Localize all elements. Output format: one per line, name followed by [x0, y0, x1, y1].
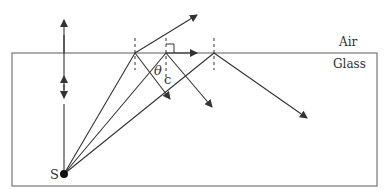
source-label: S [50, 167, 59, 182]
total-internal-reflection-diagram: S θ c Air Glass [0, 0, 387, 190]
ray2-incident [64, 53, 166, 174]
air-label: Air [338, 35, 358, 49]
ray3-incident [64, 53, 214, 174]
source-point [60, 170, 68, 178]
glass-label: Glass [333, 57, 366, 71]
ray2-reflected [166, 53, 212, 107]
ray3-reflected [214, 53, 307, 118]
ray1-refracted [135, 15, 197, 53]
theta-subscript-label: c [164, 72, 171, 87]
right-angle-icon [166, 44, 174, 53]
glass-block [12, 53, 377, 186]
theta-label: θ [154, 63, 162, 78]
ray1-incident [64, 53, 135, 174]
